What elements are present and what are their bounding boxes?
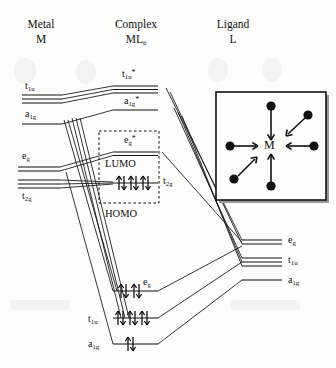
column-header-ligand-line1: Ligand [200,18,266,30]
metal-label-t1u: t1u [25,80,35,92]
lumo-label: LUMO [105,158,136,169]
column-header-ligand-line2: L [200,33,266,45]
ligand-dot-upper-right [303,110,312,119]
column-header-complex-line2: ML6 [103,33,169,46]
correlation-metal-to-bonding-eg [64,120,117,291]
complex-level-eg-star-lines [113,152,158,156]
metal-level-eg-lines [18,167,60,171]
column-header-complex-line1: Complex [103,18,169,30]
metal-level-t2g-lines [18,180,60,188]
complex-label-t1u-star: t1u* [122,68,136,80]
ligand-level-t1u-lines [242,258,282,266]
correlation-metal-a1g-to-antibonding [62,110,113,124]
ligand-level-eg-lines [242,240,282,244]
metal-label-t2g: t2g [22,190,32,202]
ligand-label-t1u: t1u [288,254,298,266]
ligand-dot-lower-left [229,174,238,183]
complex-label-t2g: t2g [163,175,173,187]
homo-label: HOMO [105,208,137,219]
ligand-label-a1g: a1g [288,274,299,286]
column-header-metal-line2: M [8,33,74,45]
metal-level-t1u-lines [22,95,62,103]
complex-label-eg-bonding: eg [143,276,151,288]
complex-label-eg-star: eg* [124,134,136,146]
complex-level-t1u-star-lines [113,86,158,93]
inset-center-metal-label: M [264,138,275,153]
column-header-metal-line1: Metal [8,18,74,30]
complex-label-t1u-bonding: t1u [88,313,98,325]
correlation-ligand-to-bonding [158,246,242,344]
ligand-dot-bottom [266,181,275,190]
mo-diagram-canvas: Metal M Complex ML6 Ligand L t1u a1g eg … [0,0,336,368]
correlation-metal-t1u-to-antibonding [62,86,113,103]
ligand-dot-left [225,141,234,150]
metal-label-eg: eg [22,150,30,162]
metal-label-a1g: a1g [25,108,36,120]
ligand-dot-top [266,101,275,110]
complex-label-a1g-star: a1g* [124,95,139,107]
ligand-label-eg: eg [288,234,296,246]
complex-label-a1g-bonding: a1g [88,338,99,350]
ligand-dot-right [309,141,318,150]
